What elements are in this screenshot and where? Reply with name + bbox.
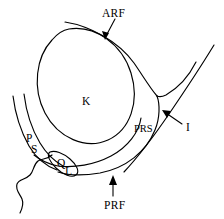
label-prf: PRF bbox=[104, 200, 125, 212]
label-k: K bbox=[82, 96, 90, 108]
label-l: L bbox=[65, 166, 72, 178]
prf-arrowhead bbox=[109, 175, 117, 185]
label-i: I bbox=[186, 122, 190, 134]
label-prs: PRS bbox=[134, 124, 153, 135]
psoas-squiggle bbox=[17, 155, 52, 213]
anterior-renal-fascia-line bbox=[65, 22, 157, 96]
perirenal-outer-upper-right bbox=[157, 62, 196, 97]
label-s: S bbox=[31, 144, 37, 156]
kidney-outline bbox=[37, 28, 134, 143]
figure-canvas: ARF PRS PRF I K P S Q L bbox=[0, 0, 224, 219]
perirenal-outer-lower bbox=[58, 96, 159, 175]
interfascial-plane-line bbox=[124, 45, 214, 172]
label-arf: ARF bbox=[102, 8, 125, 20]
diagram-svg bbox=[0, 0, 224, 219]
